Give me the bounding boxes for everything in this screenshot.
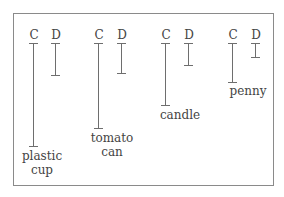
d-bar (188, 43, 189, 65)
d-bar (255, 43, 256, 57)
item-label-line2: cup (22, 163, 62, 177)
c-bar (98, 43, 99, 128)
c-label: C (161, 29, 170, 41)
c-label: C (29, 29, 38, 41)
item-label-line1: candle (160, 108, 200, 122)
item-label: tomato can (91, 131, 134, 159)
d-label: D (184, 29, 194, 41)
item-label: candle (160, 108, 200, 122)
c-bar (165, 43, 166, 105)
item-label-line1: penny (229, 84, 266, 98)
d-label: D (251, 29, 261, 41)
c-bar-bottom-cap (161, 105, 170, 106)
d-label: D (51, 29, 61, 41)
d-bar-bottom-cap (117, 73, 126, 74)
item-label-line1: plastic (22, 149, 62, 163)
d-bar-bottom-cap (251, 57, 260, 58)
d-bar (55, 43, 56, 75)
d-label: D (117, 29, 127, 41)
c-bar-bottom-cap (29, 146, 38, 147)
c-label: C (94, 29, 103, 41)
c-bar-bottom-cap (94, 128, 103, 129)
d-bar-bottom-cap (51, 75, 60, 76)
d-bar-bottom-cap (184, 65, 193, 66)
c-bar (232, 43, 233, 82)
d-bar (121, 43, 122, 73)
c-bar (33, 43, 34, 146)
c-label: C (228, 29, 237, 41)
item-label-line2: can (91, 145, 134, 159)
item-label: penny (229, 84, 266, 98)
item-label-line1: tomato (91, 131, 134, 145)
item-label: plastic cup (22, 149, 62, 177)
c-bar-bottom-cap (228, 82, 237, 83)
